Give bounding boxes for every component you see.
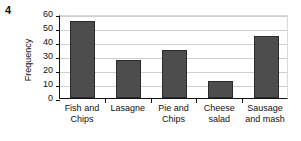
y-tick-label: 0 bbox=[27, 94, 53, 103]
x-axis-category-label: Cheesesalad bbox=[196, 103, 242, 125]
x-axis-category-label: Lasagne bbox=[105, 103, 151, 114]
y-tick-mark bbox=[56, 44, 60, 45]
y-tick-mark bbox=[56, 72, 60, 73]
question-number: 4 bbox=[5, 4, 11, 16]
y-tick-label: 10 bbox=[27, 80, 53, 89]
plot-area bbox=[59, 15, 288, 99]
bar-chart: 4 Frequency 0102030405060Fish andChipsLa… bbox=[0, 0, 301, 141]
y-tick-label: 60 bbox=[27, 10, 53, 19]
bar bbox=[208, 81, 233, 98]
y-tick-mark bbox=[56, 86, 60, 87]
gridline bbox=[60, 16, 287, 17]
bar bbox=[70, 21, 95, 98]
x-axis-category-label: Fish andChips bbox=[59, 103, 105, 125]
bar bbox=[162, 50, 187, 98]
bar bbox=[116, 60, 141, 98]
y-tick-label: 30 bbox=[27, 52, 53, 61]
y-tick-mark bbox=[56, 30, 60, 31]
y-tick-label: 50 bbox=[27, 24, 53, 33]
y-tick-label: 20 bbox=[27, 66, 53, 75]
y-tick-mark bbox=[56, 16, 60, 17]
y-tick-mark bbox=[56, 100, 60, 101]
y-tick-label: 40 bbox=[27, 38, 53, 47]
x-axis-category-label: Pie andChips bbox=[151, 103, 197, 125]
bar bbox=[254, 36, 279, 98]
y-tick-mark bbox=[56, 58, 60, 59]
x-axis-category-label: Sausageand mash bbox=[242, 103, 288, 125]
